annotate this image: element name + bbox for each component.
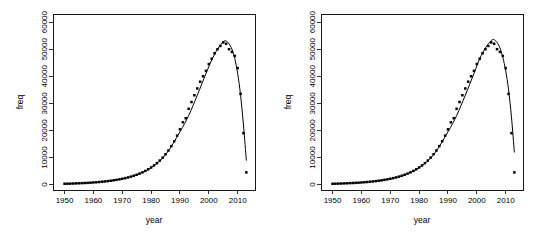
y-axis: 0100002000030000400005000060000freq	[283, 10, 321, 186]
x-tick-label: 1990	[439, 196, 457, 205]
data-point	[202, 75, 205, 78]
data-point	[470, 75, 473, 78]
x-axis: 1950196019701980199020002010year	[324, 190, 515, 225]
y-tick-label: 10000	[41, 146, 50, 169]
x-axis-title: year	[146, 215, 163, 225]
x-tick-label: 2010	[229, 196, 247, 205]
data-point	[245, 171, 248, 174]
data-point	[493, 43, 496, 46]
chart-svg-left: 1950196019701980199020002010year01000020…	[0, 0, 267, 238]
data-point	[464, 87, 467, 90]
y-tick-label: 50000	[41, 38, 50, 61]
x-tick-label: 2010	[497, 196, 515, 205]
y-tick-label: 30000	[41, 92, 50, 115]
data-point	[225, 43, 228, 46]
x-tick-label: 1950	[56, 196, 74, 205]
figure-canvas: 1950196019701980199020002010year01000020…	[0, 0, 535, 238]
x-tick-label: 1970	[113, 196, 131, 205]
data-point	[496, 48, 499, 51]
data-point	[455, 108, 458, 111]
x-tick-label: 1960	[85, 196, 103, 205]
plot-region-left: 1950196019701980199020002010year01000020…	[15, 10, 255, 225]
y-tick-label: 40000	[309, 65, 318, 88]
data-point	[199, 80, 202, 83]
fitted-curve	[333, 39, 515, 183]
data-point	[193, 94, 196, 97]
data-points	[63, 41, 247, 185]
y-tick-label: 40000	[41, 65, 50, 88]
y-tick-label: 50000	[309, 38, 318, 61]
chart-panel-left: 1950196019701980199020002010year01000020…	[0, 0, 267, 238]
y-tick-label: 10000	[309, 146, 318, 169]
y-tick-label: 30000	[309, 92, 318, 115]
data-point	[228, 48, 231, 51]
data-point	[187, 108, 190, 111]
data-point	[196, 87, 199, 90]
data-point	[461, 94, 464, 97]
x-axis-title: year	[414, 215, 431, 225]
x-tick-label: 2000	[200, 196, 218, 205]
y-tick-label: 0	[41, 182, 50, 187]
plot-frame	[321, 14, 523, 190]
y-tick-label: 20000	[309, 119, 318, 142]
x-tick-label: 2000	[468, 196, 486, 205]
y-tick-label: 0	[309, 182, 318, 187]
y-axis-title: freq	[15, 94, 25, 109]
data-point	[182, 121, 185, 124]
data-point	[450, 121, 453, 124]
fitted-curve	[65, 41, 247, 184]
data-points	[331, 41, 515, 185]
chart-panel-right: 1950196019701980199020002010year01000020…	[268, 0, 535, 238]
x-tick-label: 1960	[353, 196, 371, 205]
data-point	[467, 80, 470, 83]
data-point	[458, 101, 461, 104]
y-axis-title: freq	[283, 94, 293, 109]
x-tick-label: 1970	[381, 196, 399, 205]
y-tick-label: 20000	[41, 119, 50, 142]
x-tick-label: 1990	[171, 196, 189, 205]
y-axis: 0100002000030000400005000060000freq	[15, 10, 53, 186]
plot-region-right: 1950196019701980199020002010year01000020…	[283, 10, 523, 225]
data-point	[513, 171, 516, 174]
chart-svg-right: 1950196019701980199020002010year01000020…	[268, 0, 535, 238]
data-point	[190, 101, 193, 104]
y-tick-label: 60000	[41, 10, 50, 33]
x-tick-label: 1980	[142, 196, 160, 205]
y-tick-label: 60000	[309, 10, 318, 33]
x-tick-label: 1950	[324, 196, 342, 205]
x-tick-label: 1980	[410, 196, 428, 205]
x-axis: 1950196019701980199020002010year	[56, 190, 247, 225]
